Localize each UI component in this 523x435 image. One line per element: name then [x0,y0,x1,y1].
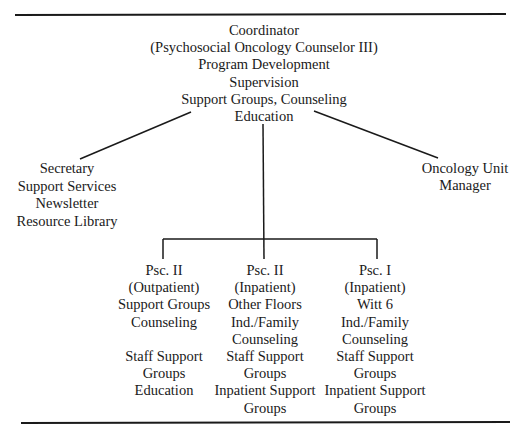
node-line: Resource Library [16,213,117,231]
node-line: Psc. I [324,262,425,279]
node-line: (Inpatient) [324,279,425,296]
node-line: Ind./Family [214,314,315,331]
node-oncology-unit-manager: Oncology Unit Manager [422,160,509,194]
node-line: (Psychosocial Oncology Counselor III) [150,39,378,56]
node-line: Secretary [16,160,117,178]
node-coordinator: Coordinator (Psychosocial Oncology Couns… [150,22,378,125]
node-line: Groups [324,365,425,382]
node-line: (Outpatient) [118,279,210,296]
node-line: Support Services [16,178,117,196]
bottom-rule [21,422,510,423]
node-line: Supervision [150,74,378,91]
node-psc-ii-inpatient: Psc. II (Inpatient) Other Floors Ind./Fa… [214,262,315,417]
node-line: Program Development [150,56,378,73]
node-line: Psc. II [118,262,210,279]
node-line: Support Groups, Counseling [150,91,378,108]
node-line: Inpatient Support [324,382,425,399]
node-line: Staff Support [324,348,425,365]
node-line: Newsletter [16,195,117,213]
node-line: Ind./Family [324,314,425,331]
node-line: Counseling [214,331,315,348]
node-line: Groups [324,400,425,417]
node-line: Support Groups [118,296,210,313]
node-line: Staff Support [118,348,210,365]
node-line: Manager [422,177,509,194]
node-line: (Inpatient) [214,279,315,296]
node-line: Witt 6 [324,296,425,313]
node-line: Groups [214,400,315,417]
node-psc-i-inpatient: Psc. I (Inpatient) Witt 6 Ind./Family Co… [324,262,425,417]
node-line: Psc. II [214,262,315,279]
node-line: Coordinator [150,22,378,39]
node-psc-ii-outpatient: Psc. II (Outpatient) Support Groups Coun… [118,262,210,400]
node-line: Other Floors [214,296,315,313]
node-line: Groups [214,365,315,382]
node-line-spacer [118,331,210,348]
node-line: Oncology Unit [422,160,509,177]
node-line: Groups [118,365,210,382]
node-line: Counseling [324,331,425,348]
top-rule [15,14,506,15]
node-line: Inpatient Support [214,382,315,399]
node-line: Education [150,108,378,125]
node-secretary: Secretary Support Services Newsletter Re… [16,160,117,230]
node-line: Counseling [118,314,210,331]
node-line: Education [118,382,210,399]
node-line: Staff Support [214,348,315,365]
